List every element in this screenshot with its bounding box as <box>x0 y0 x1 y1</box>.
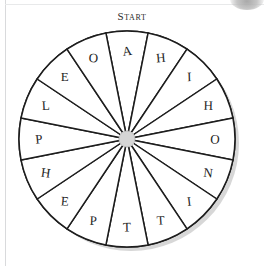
wheel-sector-letter: H <box>203 98 213 113</box>
corner-smudge-artifact <box>230 0 264 10</box>
wheel-sector-letter: I <box>187 69 192 84</box>
page-frame-left-border <box>5 0 6 266</box>
wheel-sector-letter: E <box>60 193 69 209</box>
wheel-sector-letter: O <box>88 50 98 65</box>
spinner-wheel-page: Start AHIHONITTPEHPLEO <box>0 0 264 266</box>
wheel-sector-letter: P <box>35 131 44 147</box>
wheel-sector-letter: E <box>61 69 69 84</box>
wheel-sector-letter: T <box>123 219 131 234</box>
start-label: Start <box>0 10 264 22</box>
wheel-sector-letter: P <box>89 213 97 228</box>
wheel-sector-letter: O <box>210 131 220 147</box>
wheel-sector-letter: T <box>156 213 165 229</box>
wheel-sector-letter: L <box>41 98 50 113</box>
page-frame-top-border <box>5 4 264 5</box>
wheel-hub <box>119 131 135 147</box>
spinner-wheel-graphic[interactable]: AHIHONITTPEHPLEO <box>14 26 244 256</box>
wheel-sector-letter: H <box>155 50 166 66</box>
spinner-wheel[interactable]: AHIHONITTPEHPLEO <box>14 26 244 256</box>
